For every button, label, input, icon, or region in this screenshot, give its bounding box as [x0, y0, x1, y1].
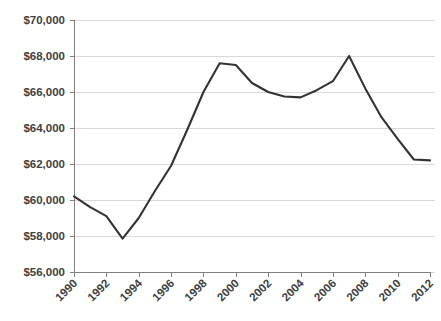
y-axis-tick-label: $56,000 [23, 266, 65, 278]
x-axis-tick-label: 1996 [150, 277, 177, 304]
x-axis-tick-label: 2002 [247, 277, 274, 304]
line-chart: $70,000$68,000$66,000$64,000$62,000$60,0… [0, 0, 441, 321]
y-axis-tick-label: $66,000 [23, 86, 65, 98]
x-axis-tick-label: 1998 [182, 277, 209, 304]
y-axis-tick-label: $64,000 [23, 122, 65, 134]
y-axis-labels: $70,000$68,000$66,000$64,000$62,000$60,0… [23, 14, 65, 278]
x-axis-tick-label: 2010 [376, 277, 403, 304]
y-axis-tick-label: $68,000 [23, 50, 65, 62]
x-axis-tick-label: 2000 [215, 277, 242, 304]
x-axis-tick-label: 1990 [53, 277, 80, 304]
y-axis-tick-marks [70, 21, 74, 273]
x-axis-tick-label: 2006 [312, 277, 339, 304]
gridlines-group [74, 21, 435, 273]
x-axis-tick-label: 2004 [279, 277, 306, 304]
x-axis-tick-label: 1994 [118, 277, 145, 304]
x-axis-tick-label: 2012 [409, 277, 436, 304]
y-axis-tick-label: $62,000 [23, 158, 65, 170]
y-axis-tick-label: $58,000 [23, 230, 65, 242]
x-axis-tick-label: 2008 [344, 277, 371, 304]
y-axis-tick-label: $70,000 [23, 14, 65, 26]
x-axis-labels: 1990199219941996199820002002200420062008… [53, 277, 436, 304]
chart-container: $70,000$68,000$66,000$64,000$62,000$60,0… [0, 0, 441, 321]
y-axis-tick-label: $60,000 [23, 194, 65, 206]
data-series-line [74, 56, 430, 239]
x-axis-tick-label: 1992 [85, 277, 112, 304]
